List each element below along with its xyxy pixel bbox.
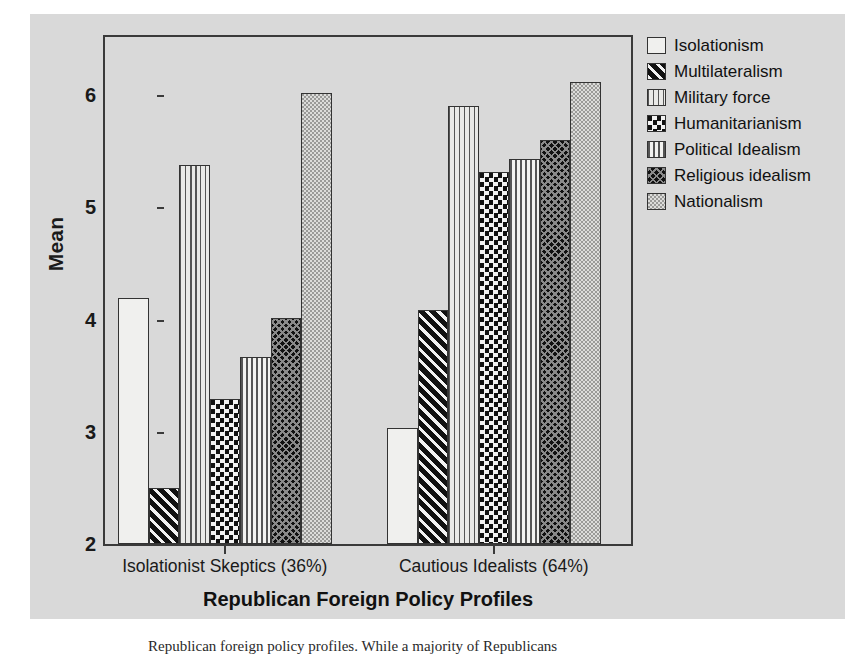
legend-swatch-icon [647, 193, 666, 210]
legend-item: Humanitarianism [647, 111, 847, 136]
bar [210, 399, 241, 544]
bar [387, 428, 418, 544]
legend-item: Nationalism [647, 189, 847, 214]
bar [240, 357, 271, 544]
legend-label: Military force [674, 89, 770, 106]
legend-item: Religious idealism [647, 163, 847, 188]
bar-group-isolationist-skeptics [118, 37, 332, 544]
bar [179, 165, 210, 544]
x-axis-title: Republican Foreign Policy Profiles [103, 588, 633, 611]
legend: IsolationismMultilateralismMilitary forc… [647, 33, 847, 215]
legend-item: Political Idealism [647, 137, 847, 162]
bar [448, 106, 479, 544]
y-tick-label: 5 [68, 197, 96, 217]
x-tick-mark [493, 546, 495, 554]
legend-swatch-icon [647, 89, 666, 106]
x-tick-label: Cautious Idealists (64%) [364, 556, 624, 577]
x-tick-label: Isolationist Skeptics (36%) [95, 556, 355, 577]
legend-item: Isolationism [647, 33, 847, 58]
legend-swatch-icon [647, 63, 666, 80]
legend-label: Nationalism [674, 193, 763, 210]
legend-swatch-icon [647, 37, 666, 54]
y-tick-label: 4 [68, 310, 96, 330]
bar [418, 310, 449, 544]
bar [118, 298, 149, 544]
legend-swatch-icon [647, 167, 666, 184]
figure-page: Mean 23456 Republican Foreign Policy Pro… [0, 0, 858, 659]
legend-label: Religious idealism [674, 167, 811, 184]
legend-label: Political Idealism [674, 141, 801, 158]
legend-item: Multilateralism [647, 59, 847, 84]
y-tick-label: 6 [68, 85, 96, 105]
bar [540, 140, 571, 544]
bar [570, 82, 601, 544]
bar [509, 159, 540, 544]
legend-label: Multilateralism [674, 63, 783, 80]
y-tick-label: 3 [68, 422, 96, 442]
legend-swatch-icon [647, 141, 666, 158]
bar [271, 318, 302, 544]
legend-label: Humanitarianism [674, 115, 802, 132]
x-tick-mark [224, 546, 226, 554]
y-axis-ticks: 23456 [60, 0, 96, 659]
bar-group-cautious-idealists [387, 37, 601, 544]
legend-swatch-icon [647, 115, 666, 132]
legend-item: Military force [647, 85, 847, 110]
bar [479, 172, 510, 545]
bar [301, 93, 332, 544]
figure-caption: Republican foreign policy profiles. Whil… [148, 636, 728, 659]
y-tick-label: 2 [68, 534, 96, 554]
plot-area [105, 37, 631, 544]
bar [149, 488, 180, 544]
legend-label: Isolationism [674, 37, 764, 54]
